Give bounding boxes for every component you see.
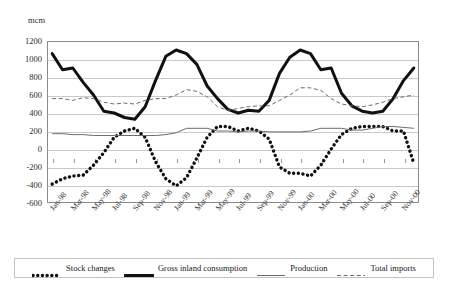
y-axis-tick-label: 1200 [0,37,42,45]
y-axis-tick-label: -200 [0,163,42,171]
legend-item[interactable]: Stock changes [32,263,115,273]
y-axis-tick-label: 200 [0,127,42,135]
y-axis-tick-label: 0 [0,145,42,153]
chart-container: mcm Stock changesGross inland consumptio… [0,0,450,289]
chart-legend: Stock changesGross inland consumptionPro… [14,258,434,278]
legend-swatch [124,265,154,272]
legend-swatch [256,265,286,272]
legend-label: Gross inland consumption [158,263,247,273]
legend-swatch [32,265,62,272]
legend-item[interactable]: Gross inland consumption [124,263,247,273]
y-axis-tick-label: 800 [0,73,42,81]
y-axis-tick-label: 1000 [0,55,42,63]
chart-svg-layer [0,0,450,289]
legend-item[interactable]: Total imports [336,263,415,273]
legend-item[interactable]: Production [256,263,327,273]
y-axis-tick-label: -400 [0,181,42,189]
series-line-total-imports [52,88,414,111]
series-line-gross-inland-consumption [52,50,414,119]
y-axis-tick-label: 400 [0,109,42,117]
y-axis-tick-label: 600 [0,91,42,99]
y-axis-tick-label: -600 [0,199,42,207]
legend-label: Production [290,263,327,273]
legend-swatch [336,265,366,272]
legend-label: Total imports [370,263,415,273]
legend-label: Stock changes [66,263,115,273]
